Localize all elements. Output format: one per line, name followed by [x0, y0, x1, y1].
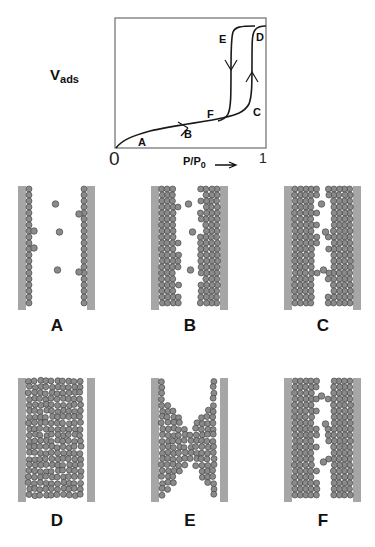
curve-point-d: D	[256, 31, 264, 43]
pore-wall	[151, 378, 159, 502]
pore-panel-a	[18, 186, 95, 310]
pore-wall	[353, 378, 361, 502]
pore-panel-e	[151, 378, 228, 502]
pore-snapshots	[18, 186, 361, 502]
pore-wall	[353, 186, 361, 310]
pore-wall	[87, 186, 95, 310]
x-tick-one: 1	[259, 150, 267, 166]
x-axis-label: P/P0	[183, 155, 206, 170]
pore-wall	[18, 186, 26, 310]
panel-label-f: F	[318, 511, 328, 531]
y-axis-label: Vads	[50, 66, 79, 85]
curve-point-e: E	[219, 33, 226, 45]
capillary-condensation-figure: Vads 0 1 P/P0 A B C D E F A B C D E F	[0, 0, 375, 547]
panel-label-e: E	[184, 511, 195, 531]
panel-label-b: B	[184, 316, 196, 336]
pore-wall	[284, 378, 292, 502]
xaxis-arrow-icon	[215, 162, 236, 168]
pore-wall	[18, 378, 26, 502]
panel-label-d: D	[51, 511, 63, 531]
panel-label-c: C	[317, 316, 329, 336]
curve-point-f: F	[207, 108, 214, 120]
pore-panel-b	[151, 186, 228, 310]
curve-point-a: A	[138, 136, 146, 148]
x-tick-zero: 0	[109, 148, 120, 170]
pore-wall	[220, 378, 228, 502]
pore-panel-f	[284, 378, 361, 502]
pore-wall	[87, 378, 95, 502]
panel-label-a: A	[51, 316, 63, 336]
pore-wall	[284, 186, 292, 310]
pore-wall	[220, 186, 228, 310]
pore-panel-c	[284, 186, 361, 310]
pore-panel-d	[18, 377, 95, 502]
curve-point-b: B	[184, 128, 192, 140]
pore-wall	[151, 186, 159, 310]
curve-point-c: C	[253, 106, 261, 118]
